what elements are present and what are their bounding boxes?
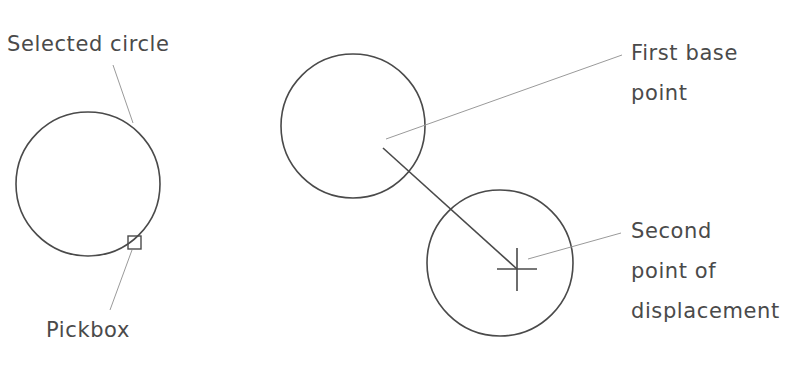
displacement-line [383,148,517,269]
first-base-point-label: First base point [631,33,738,113]
selected-circle-label: Selected circle [7,32,170,56]
pickbox-leader [110,250,132,310]
selected-circle-leader [113,65,133,123]
second-point-leader [528,233,621,259]
second-point-line-1: Second [631,211,780,251]
crosshair-cursor-icon [497,248,537,291]
second-point-label: Second point of displacement [631,211,780,331]
original-circle [281,54,425,198]
first-base-point-line-2: point [631,73,738,113]
second-point-line-3: displacement [631,291,780,331]
first-base-point-line-1: First base [631,33,738,73]
moved-circle [427,190,573,336]
selected-circle [16,112,160,256]
second-point-line-2: point of [631,251,780,291]
pickbox-label: Pickbox [46,318,130,342]
first-base-point-leader [386,55,622,139]
